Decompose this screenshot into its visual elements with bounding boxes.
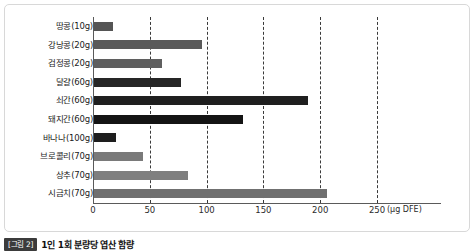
bar-row [94,166,463,185]
bar [94,189,327,198]
figure-caption: [그림 2] 1인 1회 분량당 엽산 함량 [4,238,134,251]
plot-area: 050100150200250(µg DFE) [93,17,463,203]
bar [94,78,181,87]
x-tick-label: 250 [369,205,385,215]
bar-row [94,147,463,166]
category-label: 상추(70g) [15,166,93,185]
bar-row [94,184,463,203]
category-label: 브로콜리(70g) [15,147,93,166]
bar [94,115,243,124]
figure-number-badge: [그림 2] [4,238,37,251]
bar-row [94,17,463,36]
bar-row [94,91,463,110]
bar-row [94,110,463,129]
chart-frame: 땅콩(10g) 강낭콩(20g) 검정콩(20g) 달걀(60g) 쇠간(60g… [4,4,470,232]
x-tick-label: 150 [255,205,271,215]
category-label: 쇠간(60g) [15,91,93,110]
bar [94,40,202,49]
bar [94,152,143,161]
bar-row [94,36,463,55]
category-axis-labels: 땅콩(10g) 강낭콩(20g) 검정콩(20g) 달걀(60g) 쇠간(60g… [15,17,93,203]
x-tick-label: 100 [198,205,214,215]
category-label: 검정콩(20g) [15,54,93,73]
bar [94,96,308,105]
bar-series [94,17,463,203]
category-label: 땅콩(10g) [15,17,93,36]
bar [94,171,188,180]
chart-plot-wrapper: 땅콩(10g) 강낭콩(20g) 검정콩(20g) 달걀(60g) 쇠간(60g… [5,5,469,231]
category-label: 달걀(60g) [15,73,93,92]
bar-row [94,129,463,148]
bar [94,22,113,31]
x-tick-label: 200 [312,205,328,215]
bar [94,133,116,142]
bar-row [94,54,463,73]
x-axis-tick-labels: 050100150200250(µg DFE) [93,205,463,219]
bar [94,59,162,68]
x-axis-unit-label: (µg DFE) [387,205,422,214]
figure-container: 땅콩(10g) 강낭콩(20g) 검정콩(20g) 달걀(60g) 쇠간(60g… [0,0,474,251]
bar-row [94,73,463,92]
x-axis-line [93,203,441,204]
category-label: 시금치(70g) [15,184,93,203]
x-tick-label: 0 [90,205,95,215]
category-label: 바나나(100g) [15,129,93,148]
x-tick-label: 50 [144,205,155,215]
figure-caption-text: 1인 1회 분량당 엽산 함량 [41,238,134,251]
category-label: 강낭콩(20g) [15,36,93,55]
category-label: 돼지간(60g) [15,110,93,129]
